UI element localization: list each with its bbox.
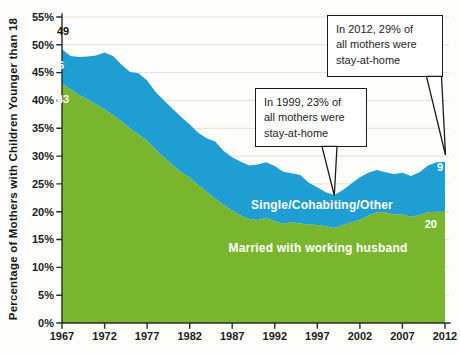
- x-tick-label: 1987: [220, 330, 244, 342]
- data-label-married-2012: 20: [415, 218, 437, 230]
- y-tick-label: 15%: [32, 233, 54, 245]
- callout-line: stay-at-home: [336, 53, 434, 68]
- x-tick-label: 1972: [92, 330, 116, 342]
- x-tick-label: 1992: [263, 330, 287, 342]
- y-tick-label: 20%: [32, 206, 54, 218]
- callout-line: In 2012, 29% of: [336, 22, 434, 37]
- x-tick-label: 1967: [50, 330, 74, 342]
- callout-line: all mothers were: [336, 37, 434, 52]
- data-label-total-1967: 49: [52, 25, 74, 37]
- callout-line: In 1999, 23% of: [264, 95, 358, 110]
- data-label-single-1967: 6: [58, 59, 76, 71]
- y-tick-label: 55%: [32, 11, 54, 23]
- y-tick-label: 35%: [32, 122, 54, 134]
- y-tick-label: 40%: [32, 94, 54, 106]
- area-label-single-cohabiting-other: Single/Cohabiting/Other: [247, 198, 397, 212]
- callout-2012: In 2012, 29% of all mothers were stay-at…: [327, 15, 443, 77]
- y-tick-label: 25%: [32, 178, 54, 190]
- y-axis-title: Percentage of Mothers with Children Youn…: [7, 0, 19, 339]
- y-tick-label: 10%: [32, 261, 54, 273]
- y-tick-label: 50%: [32, 39, 54, 51]
- data-label-single-2012: 9: [427, 161, 443, 173]
- stay-at-home-mothers-figure: 0%5%10%15%20%25%30%35%40%45%50%55%196719…: [0, 0, 460, 355]
- callout-line: all mothers were: [264, 110, 358, 125]
- y-tick-label: 0%: [38, 317, 54, 329]
- x-tick-label: 1982: [177, 330, 201, 342]
- x-tick-label: 2002: [348, 330, 372, 342]
- y-tick-label: 5%: [38, 289, 54, 301]
- y-tick-label: 30%: [32, 150, 54, 162]
- x-tick-label: 2012: [433, 330, 457, 342]
- callout-line: stay-at-home: [264, 126, 358, 141]
- x-tick-label: 1977: [135, 330, 159, 342]
- area-label-married-working-husband: Married with working husband: [228, 241, 408, 255]
- data-label-married-1967: 43: [57, 93, 79, 105]
- x-tick-label: 2007: [390, 330, 414, 342]
- callout-1999: In 1999, 23% of all mothers were stay-at…: [255, 88, 367, 147]
- y-tick-label: 45%: [32, 66, 54, 78]
- x-tick-label: 1997: [305, 330, 329, 342]
